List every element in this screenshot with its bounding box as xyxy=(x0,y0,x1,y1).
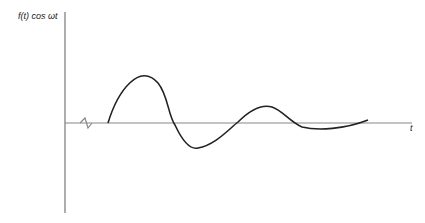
plot xyxy=(0,0,425,223)
signal-curve xyxy=(108,76,368,149)
diagram: f(t) cos ωt t xyxy=(0,0,425,223)
